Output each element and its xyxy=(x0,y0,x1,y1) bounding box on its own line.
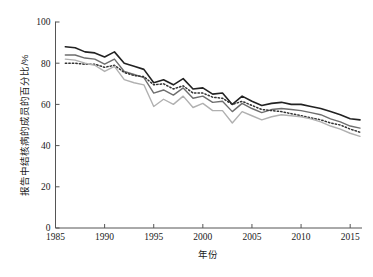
x-tick-label: 2000 xyxy=(193,232,212,242)
x-axis-title: 年份 xyxy=(198,249,218,260)
x-tick-label: 2010 xyxy=(292,232,311,242)
series-line-series-dotted xyxy=(65,63,360,132)
y-axis-title: 报告中结核病的成员的百分比/% xyxy=(19,54,30,196)
series-layer xyxy=(65,47,360,137)
x-tick-label: 1990 xyxy=(95,232,114,242)
x-tick-label: 1995 xyxy=(144,232,163,242)
series-line-series-upper-black xyxy=(65,47,360,120)
x-tick-label: 2005 xyxy=(242,232,261,242)
axes-layer xyxy=(56,22,363,229)
x-tick-label: 1985 xyxy=(46,232,65,242)
line-chart: 0204060801001985199019952000200520102015… xyxy=(0,0,373,277)
x-tick-label: 2015 xyxy=(341,232,360,242)
y-tick-label: 100 xyxy=(36,17,51,27)
axis-labels-layer: 0204060801001985199019952000200520102015… xyxy=(19,17,360,260)
y-tick-label: 60 xyxy=(41,100,51,110)
chart-container: 0204060801001985199019952000200520102015… xyxy=(0,0,373,277)
y-tick-label: 40 xyxy=(41,141,51,151)
y-tick-label: 20 xyxy=(41,182,51,192)
y-tick-label: 80 xyxy=(41,59,51,69)
